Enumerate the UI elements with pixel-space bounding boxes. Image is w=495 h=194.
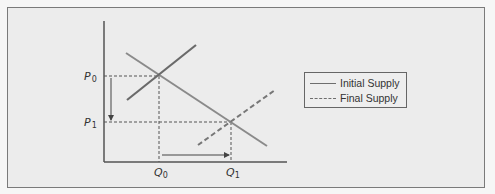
final-supply-curve	[198, 90, 275, 145]
demand-curve	[126, 53, 267, 146]
legend-item-initial: Initial Supply	[310, 76, 400, 90]
p1-label: P1	[84, 116, 97, 130]
q1-label: Q1	[226, 166, 240, 180]
supply-demand-diagram: P0 P1 Q0 Q1	[0, 0, 495, 194]
legend-item-final: Final Supply	[310, 91, 398, 105]
q0-label: Q0	[154, 166, 168, 180]
p0-label: P0	[84, 70, 97, 84]
legend-final-label: Final Supply	[340, 92, 398, 104]
solid-line-icon	[310, 83, 336, 84]
legend: Initial Supply Final Supply	[304, 72, 407, 108]
legend-initial-label: Initial Supply	[340, 77, 400, 89]
dashed-line-icon	[310, 98, 336, 99]
